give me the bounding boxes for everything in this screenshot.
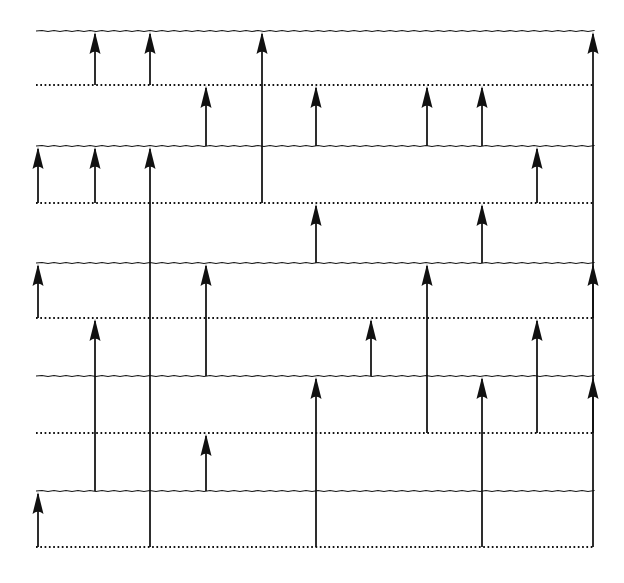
transition-arrows-group — [33, 32, 599, 547]
transition-arrow — [33, 492, 44, 547]
arrow-head — [532, 319, 543, 341]
transition-arrow — [311, 86, 322, 146]
transition-arrow — [90, 147, 101, 203]
transition-arrow — [201, 86, 212, 146]
transition-arrow — [311, 377, 322, 547]
arrow-head — [145, 32, 156, 54]
transition-arrow — [532, 147, 543, 203]
level-line-solid — [36, 376, 594, 377]
arrow-head — [477, 377, 488, 399]
transition-arrow — [422, 86, 433, 146]
arrow-head — [201, 434, 212, 456]
arrow-head — [588, 377, 599, 399]
transition-arrow — [90, 319, 101, 491]
arrow-head — [311, 204, 322, 226]
transition-arrow — [422, 264, 433, 433]
transition-arrow — [477, 204, 488, 263]
transition-arrow — [145, 32, 156, 85]
arrow-head — [311, 377, 322, 399]
figure-canvas — [0, 0, 624, 583]
transition-arrow — [477, 86, 488, 146]
level-line-solid — [36, 146, 594, 147]
arrow-head — [477, 204, 488, 226]
arrow-head — [33, 147, 44, 169]
arrow-head — [90, 32, 101, 54]
transition-arrow — [201, 264, 212, 376]
energy-level-diagram — [0, 0, 624, 583]
level-line-solid — [36, 31, 594, 32]
arrow-head — [311, 86, 322, 108]
transition-arrow — [477, 377, 488, 547]
level-lines-group — [36, 31, 594, 547]
level-line-solid — [36, 263, 594, 264]
transition-arrow — [33, 147, 44, 203]
arrow-head — [588, 264, 599, 286]
arrow-head — [145, 147, 156, 169]
level-line-solid — [36, 491, 594, 492]
arrow-head — [257, 32, 268, 54]
transition-arrow — [257, 32, 268, 203]
arrow-head — [33, 492, 44, 514]
arrow-head — [422, 86, 433, 108]
arrow-head — [33, 264, 44, 286]
transition-arrow — [366, 319, 377, 376]
arrow-head — [366, 319, 377, 341]
arrow-head — [532, 147, 543, 169]
arrow-head — [90, 319, 101, 341]
arrow-head — [201, 86, 212, 108]
arrow-head — [477, 86, 488, 108]
transition-arrow — [145, 147, 156, 547]
arrow-head — [588, 32, 599, 54]
transition-arrow — [201, 434, 212, 491]
transition-arrow — [33, 264, 44, 318]
transition-arrow — [311, 204, 322, 263]
transition-arrow — [588, 377, 599, 547]
arrow-head — [90, 147, 101, 169]
transition-arrow — [90, 32, 101, 85]
arrow-head — [422, 264, 433, 286]
arrow-head — [201, 264, 212, 286]
